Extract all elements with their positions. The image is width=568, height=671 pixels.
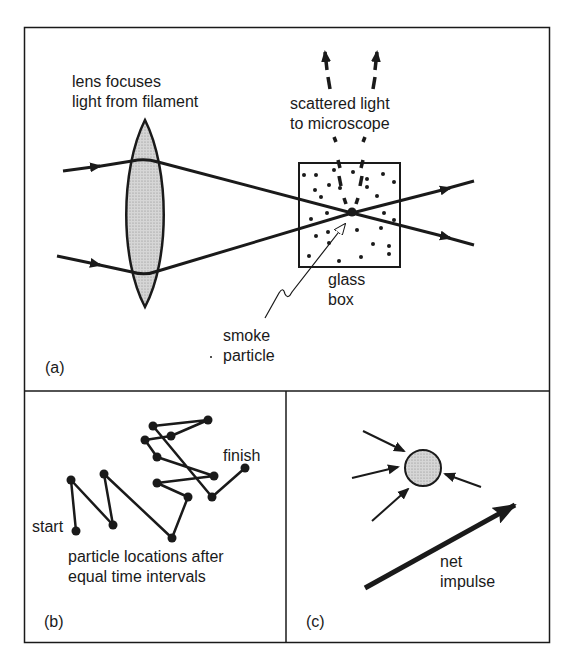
smoke-particle-caption-line1: smoke — [223, 326, 275, 346]
smoke-particle-caption: smoke particle — [223, 326, 275, 366]
random-walk-caption-line2: equal time intervals — [68, 567, 224, 587]
lens-caption: lens focuses light from filament — [72, 72, 198, 112]
finish-label: finish — [223, 446, 260, 466]
panel-b-label: (b) — [44, 612, 64, 632]
panel-b-random-walk — [67, 416, 250, 543]
converging-light-rays — [158, 162, 474, 271]
incoming-light-rays — [57, 161, 132, 272]
panel-c-label: (c) — [306, 612, 325, 632]
scatter-caption-line1: scattered light — [290, 94, 390, 114]
random-walk-caption-line1: particle locations after — [68, 547, 224, 567]
glass-box-caption-line2: box — [328, 290, 365, 310]
lens-caption-line2: light from filament — [72, 92, 198, 112]
glass-box-caption-line1: glass — [328, 270, 365, 290]
smoke-particle-icon — [405, 450, 441, 486]
lens-caption-line1: lens focuses — [72, 72, 198, 92]
smoke-particles — [302, 168, 396, 263]
lens-icon — [126, 120, 164, 307]
smoke-particle-caption-line2: particle — [223, 346, 275, 366]
net-impulse-caption: net impulse — [440, 552, 495, 592]
glass-box-caption: glass box — [328, 270, 365, 310]
net-impulse-caption-line2: impulse — [440, 572, 495, 592]
net-impulse-caption-line1: net — [440, 552, 495, 572]
panel-a-label: (a) — [45, 358, 65, 378]
start-label: start — [32, 517, 63, 537]
scatter-caption-line2: to microscope — [290, 114, 390, 134]
scatter-caption: scattered light to microscope — [290, 94, 390, 134]
random-walk-caption: particle locations after equal time inte… — [68, 547, 224, 587]
